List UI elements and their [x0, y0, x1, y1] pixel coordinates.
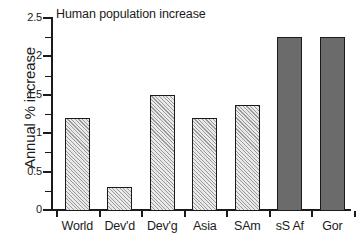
- bar-dev-g: [150, 95, 175, 211]
- y-tick-label-wrap: 1: [0, 127, 42, 138]
- y-minor-tick-mark: [45, 152, 52, 153]
- y-tick-label: 0: [0, 204, 42, 215]
- y-tick-label: 1: [0, 127, 42, 138]
- y-tick-label: 1.5: [0, 89, 42, 100]
- bar-asia: [192, 118, 217, 211]
- y-minor-tick-mark: [45, 191, 52, 192]
- bar-gor: [320, 37, 345, 211]
- x-tick-mark: [184, 211, 186, 217]
- y-minor-tick-mark: [45, 76, 52, 77]
- x-tick-mark: [269, 211, 271, 217]
- y-tick-label: 2: [0, 50, 42, 61]
- bar-dev-d: [107, 187, 132, 211]
- x-tick-mark: [226, 211, 228, 217]
- bar-world: [65, 118, 90, 211]
- x-tick-mark: [56, 211, 58, 217]
- x-tick-mark: [311, 211, 313, 217]
- y-tick-label-wrap: 0: [0, 204, 42, 215]
- y-minor-tick-mark: [45, 37, 52, 38]
- y-tick-mark: [43, 171, 52, 173]
- y-tick-label-wrap: 1.5: [0, 89, 42, 100]
- bar-chart: Human population increase Annual % incre…: [0, 0, 361, 242]
- y-tick-label-wrap: 2: [0, 50, 42, 61]
- y-tick-mark: [43, 55, 52, 57]
- x-tick-mark: [354, 211, 356, 217]
- y-tick-mark: [43, 132, 52, 134]
- x-tick-mark: [99, 211, 101, 217]
- y-tick-label: 2.5: [0, 12, 42, 23]
- x-tick-label: Gor: [302, 219, 361, 233]
- chart-title: Human population increase: [56, 7, 206, 21]
- y-tick-label: 0.5: [0, 166, 42, 177]
- y-tick-label-wrap: 0.5: [0, 166, 42, 177]
- bar-ss-af: [277, 37, 302, 211]
- y-tick-mark: [43, 17, 52, 19]
- y-tick-label-wrap: 2.5: [0, 12, 42, 23]
- y-minor-tick-mark: [45, 114, 52, 115]
- x-tick-mark: [141, 211, 143, 217]
- y-tick-mark: [43, 209, 52, 211]
- y-tick-mark: [43, 94, 52, 96]
- bar-sam: [235, 105, 260, 211]
